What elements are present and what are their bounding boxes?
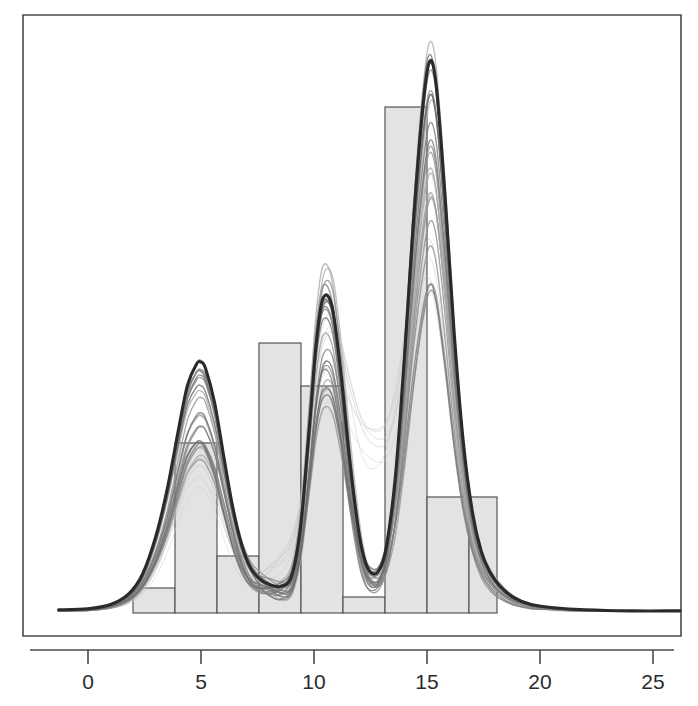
x-axis-tick-label: 25 [641, 670, 664, 693]
histogram-bar [427, 497, 469, 613]
x-axis-tick-label: 20 [528, 670, 551, 693]
x-axis-tick-label: 5 [195, 670, 207, 693]
density-histogram-figure: 0510152025 [0, 0, 698, 706]
x-axis-tick-label: 15 [415, 670, 438, 693]
x-axis-tick-label: 0 [82, 670, 94, 693]
x-axis-tick-label: 10 [302, 670, 325, 693]
histogram-bar [343, 597, 385, 613]
